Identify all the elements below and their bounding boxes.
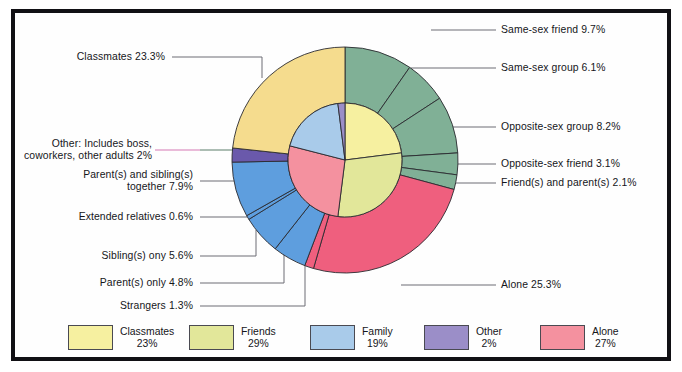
legend-text-friends: Friends 29%: [241, 325, 276, 350]
label-parents-and-siblings-together: Parent(s) and sibling(s) together 7.9%: [0, 169, 193, 192]
legend-label-other: Other: [476, 326, 502, 337]
chart-stage: Same-sex friend 9.7% Same-sex group 6.1%…: [0, 0, 682, 372]
inner-ring-wedges: [288, 103, 402, 217]
legend-pct-classmates: 23%: [120, 338, 174, 350]
leader-parents-only: [200, 244, 284, 283]
legend-pct-family: 19%: [362, 338, 393, 350]
label-alone: Alone 25.3%: [501, 279, 561, 291]
label-other-line2: coworkers, other adults 2%: [24, 150, 152, 161]
legend-item-friends[interactable]: Friends 29%: [189, 325, 276, 350]
label-parents-siblings-line2: together 7.9%: [127, 181, 193, 192]
legend-swatch-alone: [540, 325, 585, 350]
legend-label-family: Family: [362, 326, 393, 337]
legend-label-classmates: Classmates: [120, 326, 174, 337]
label-strangers: Strangers 1.3%: [0, 300, 193, 312]
legend-pct-alone: 27%: [592, 338, 619, 350]
legend-item-other[interactable]: Other 2%: [424, 325, 502, 350]
label-friends-and-parents: Friend(s) and parent(s) 2.1%: [501, 177, 637, 189]
label-siblings-only: Sibling(s) ony 5.6%: [0, 250, 193, 262]
leader-strangers: [200, 258, 305, 306]
legend-label-friends: Friends: [241, 326, 276, 337]
label-other-boss-coworkers: Other: Includes boss, coworkers, other a…: [0, 138, 152, 161]
legend-pct-other: 2%: [476, 338, 502, 350]
legend-swatch-friends: [189, 325, 234, 350]
legend-text-family: Family 19%: [362, 325, 393, 350]
label-other-line1: Other: Includes boss,: [52, 138, 152, 149]
legend-pct-friends: 29%: [241, 338, 276, 350]
label-parents-siblings-line1: Parent(s) and sibling(s): [83, 169, 193, 180]
legend-item-alone[interactable]: Alone 27%: [540, 325, 619, 350]
label-parents-only: Parent(s) only 4.8%: [0, 277, 193, 289]
legend-item-family[interactable]: Family 19%: [310, 325, 393, 350]
label-same-sex-group: Same-sex group 6.1%: [501, 62, 606, 74]
legend-text-other: Other 2%: [476, 325, 502, 350]
leader-classmates: [172, 57, 262, 78]
label-opposite-sex-friend: Opposite-sex friend 3.1%: [501, 158, 620, 170]
legend-swatch-other: [424, 325, 469, 350]
legend-text-classmates: Classmates 23%: [120, 325, 174, 350]
leader-siblings-only: [200, 230, 256, 256]
legend-item-classmates[interactable]: Classmates 23%: [68, 325, 174, 350]
legend-label-alone: Alone: [592, 326, 619, 337]
legend-swatch-family: [310, 325, 355, 350]
legend-text-alone: Alone 27%: [592, 325, 619, 350]
label-opposite-sex-group: Opposite-sex group 8.2%: [501, 121, 621, 133]
legend-swatch-classmates: [68, 325, 113, 350]
label-classmates: Classmates 23.3%: [0, 51, 165, 63]
label-same-sex-friend: Same-sex friend 9.7%: [501, 24, 605, 36]
label-extended-relatives: Extended relatives 0.6%: [0, 211, 193, 223]
